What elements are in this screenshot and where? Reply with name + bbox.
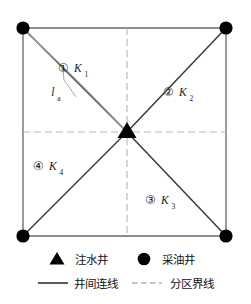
zone-label-4: ④ K 4 [33, 160, 64, 177]
production-well-bottom-left [16, 229, 29, 242]
zone-1-symbol: K [73, 62, 83, 74]
legend-label-connection-line: 井间连线 [74, 277, 119, 290]
streamline-length-annotation: l a [51, 86, 61, 103]
zone-2-symbol: K [178, 86, 188, 98]
zone-4-marker: ④ [33, 160, 44, 172]
legend: 注水井 采油井 井间连线 分区界线 [38, 252, 215, 290]
production-well-top-right [219, 21, 232, 34]
legend-item-injection-well: 注水井 [50, 252, 109, 266]
zone-3-symbol: K [160, 194, 170, 206]
zone-3-marker: ③ [145, 194, 156, 206]
legend-row-marker: 注水井 采油井 [50, 252, 196, 266]
streamline-length-label: l a [51, 86, 61, 103]
legend-item-connection-line: 井间连线 [38, 277, 119, 290]
legend-item-boundary-line: 分区界线 [132, 277, 215, 290]
legend-row-line: 井间连线 分区界线 [38, 277, 215, 290]
legend-label-production-well: 采油井 [162, 253, 195, 266]
zone-1-marker: ① [58, 62, 69, 74]
zone-labels: ① K 1 ② K 2 ③ K 3 ④ K 4 [33, 62, 194, 211]
figure-root: 五点法井网分区示意图 [0, 0, 251, 304]
connection-line-sw [23, 132, 127, 236]
zone-2-subscript: 2 [190, 94, 194, 103]
legend-label-boundary-line: 分区界线 [170, 277, 215, 290]
production-well-top-left [16, 21, 29, 34]
well-pattern-diagram: ① K 1 ② K 2 ③ K 3 ④ K 4 l [0, 0, 251, 304]
zone-1-subscript: 1 [85, 70, 89, 79]
triangle-marker-icon [50, 252, 65, 265]
zone-label-3: ③ K 3 [145, 194, 176, 211]
production-well-bottom-right [219, 229, 232, 242]
zone-2-marker: ② [163, 86, 174, 98]
legend-label-injection-well: 注水井 [75, 253, 108, 266]
zone-label-2: ② K 2 [163, 86, 194, 103]
streamline-length-subscript: a [57, 94, 61, 103]
circle-marker-icon [138, 253, 151, 266]
zone-4-symbol: K [48, 160, 58, 172]
streamline-length-symbol: l [51, 86, 54, 98]
zone-label-1: ① K 1 [58, 62, 89, 79]
connection-line-ne [127, 28, 226, 132]
streamline-leader-arc [64, 80, 76, 97]
zone-3-subscript: 3 [172, 202, 176, 211]
connection-line-se [127, 132, 226, 236]
legend-item-production-well: 采油井 [138, 253, 195, 266]
zone-4-subscript: 4 [60, 168, 64, 177]
